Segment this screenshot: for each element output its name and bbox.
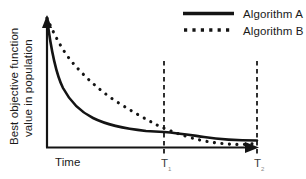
- y-axis-label-line2: value in population: [22, 39, 34, 137]
- x-tick-subscript-t1: 1: [168, 166, 172, 172]
- chart-plot-area: Time Best objective function value in po…: [0, 0, 306, 179]
- chart-legend: Algorithm A Algorithm B: [183, 8, 304, 37]
- x-tick-label-t2: T: [254, 157, 261, 169]
- x-tick-subscript-t2: 2: [261, 166, 265, 172]
- chart-figure: Time Best objective function value in po…: [0, 0, 306, 179]
- y-axis-label-line1: Best objective function: [8, 28, 20, 145]
- series-line-algorithm-b: [47, 18, 257, 144]
- legend-label-algorithm-a: Algorithm A: [243, 8, 303, 20]
- x-tick-label-t1: T: [161, 157, 168, 169]
- x-axis-label: Time: [55, 156, 81, 168]
- legend-label-algorithm-b: Algorithm B: [243, 25, 304, 37]
